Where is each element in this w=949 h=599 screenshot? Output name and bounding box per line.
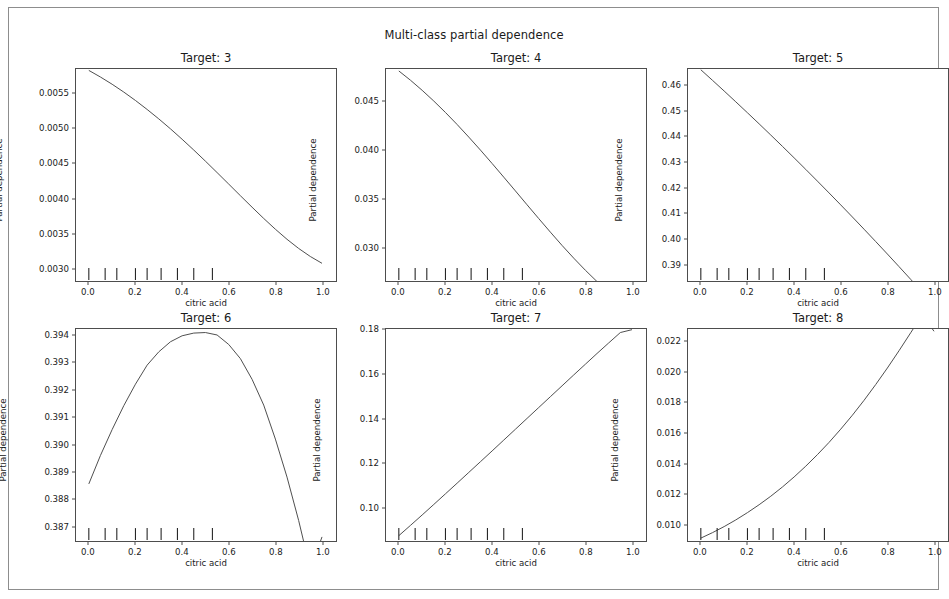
decile-rug: [701, 268, 825, 280]
pdp-curve-svg: [688, 329, 948, 541]
x-tick-label: 0.4: [787, 547, 801, 557]
x-tick-label: 0.8: [269, 547, 283, 557]
x-tick-label: 0.2: [128, 287, 142, 297]
x-axis-label: citric acid: [75, 298, 337, 308]
x-tick-label: 0.0: [81, 287, 95, 297]
x-tick-mark: [322, 542, 323, 545]
x-tick-label: 0.4: [787, 287, 801, 297]
y-tick-label: 0.46: [662, 80, 681, 90]
plot-area: [385, 328, 647, 542]
plot-area: [687, 328, 949, 542]
y-tick-label: 0.0030: [39, 264, 69, 274]
x-tick-label: 1.0: [316, 287, 330, 297]
y-tick-label: 0.392: [44, 385, 69, 395]
y-tick-label: 0.39: [662, 260, 681, 270]
y-tick-label: 0.0055: [39, 88, 69, 98]
y-axis-label: Partial dependence: [312, 380, 322, 500]
x-tick-label: 0.0: [81, 547, 95, 557]
y-tick-mark: [72, 362, 75, 363]
partial-dependence-line: [701, 70, 934, 281]
y-tick-label: 0.389: [44, 467, 69, 477]
y-tick-label: 0.022: [656, 336, 681, 346]
y-tick-mark: [382, 199, 385, 200]
x-tick-label: 0.2: [128, 547, 142, 557]
x-tick-label: 0.8: [269, 287, 283, 297]
x-tick-label: 1.0: [316, 547, 330, 557]
y-tick-mark: [72, 526, 75, 527]
x-tick-label: 0.4: [175, 287, 189, 297]
y-tick-mark: [684, 136, 687, 137]
y-tick-mark: [684, 264, 687, 265]
axes-title: Target: 7: [385, 311, 647, 325]
y-tick-label: 0.14: [360, 414, 379, 424]
y-tick-label: 0.016: [656, 428, 681, 438]
y-tick-mark: [72, 198, 75, 199]
x-tick-mark: [181, 542, 182, 545]
x-tick-mark: [491, 282, 492, 285]
y-tick-label: 0.018: [656, 397, 681, 407]
x-tick-label: 0.8: [579, 287, 593, 297]
pdp-curve-svg: [386, 69, 646, 281]
x-axis-label: citric acid: [687, 298, 949, 308]
x-tick-mark: [632, 282, 633, 285]
panel-target-7: Target: 70.100.120.140.160.180.00.20.40.…: [385, 328, 647, 542]
panel-target-6: Target: 60.3870.3880.3890.3900.3910.3920…: [75, 328, 337, 542]
y-tick-mark: [684, 402, 687, 403]
plot-area: [385, 68, 647, 282]
x-tick-label: 1.0: [928, 547, 942, 557]
y-tick-mark: [684, 524, 687, 525]
y-tick-label: 0.44: [662, 131, 681, 141]
x-tick-mark: [87, 282, 88, 285]
y-tick-label: 0.040: [354, 145, 379, 155]
axes-title: Target: 3: [75, 51, 337, 65]
y-tick-mark: [72, 163, 75, 164]
y-tick-label: 0.43: [662, 157, 681, 167]
y-tick-label: 0.010: [656, 520, 681, 530]
y-tick-mark: [72, 472, 75, 473]
x-tick-mark: [444, 282, 445, 285]
x-tick-mark: [887, 542, 888, 545]
panel-target-5: Target: 50.390.400.410.420.430.440.450.4…: [687, 68, 949, 282]
x-tick-mark: [746, 282, 747, 285]
x-tick-label: 0.0: [693, 287, 707, 297]
decile-rug: [89, 268, 213, 280]
plot-area: [75, 328, 337, 542]
y-tick-label: 0.0045: [39, 158, 69, 168]
x-tick-mark: [181, 282, 182, 285]
x-tick-mark: [444, 542, 445, 545]
y-tick-label: 0.035: [354, 194, 379, 204]
y-tick-mark: [72, 128, 75, 129]
x-tick-label: 0.2: [740, 287, 754, 297]
y-tick-label: 0.394: [44, 330, 69, 340]
pdp-curve-svg: [76, 329, 336, 541]
x-tick-label: 1.0: [626, 547, 640, 557]
y-tick-mark: [684, 341, 687, 342]
y-tick-label: 0.10: [360, 503, 379, 513]
y-tick-mark: [684, 84, 687, 85]
x-tick-mark: [840, 542, 841, 545]
x-tick-label: 0.8: [881, 287, 895, 297]
x-tick-label: 0.0: [391, 547, 405, 557]
y-tick-mark: [382, 508, 385, 509]
x-tick-label: 0.0: [391, 287, 405, 297]
decile-rug: [399, 268, 523, 280]
y-tick-mark: [72, 417, 75, 418]
plot-area: [75, 68, 337, 282]
y-tick-mark: [684, 371, 687, 372]
y-tick-label: 0.390: [44, 440, 69, 450]
x-tick-mark: [397, 542, 398, 545]
x-tick-mark: [585, 542, 586, 545]
y-tick-label: 0.16: [360, 369, 379, 379]
y-tick-mark: [72, 92, 75, 93]
y-tick-label: 0.0035: [39, 229, 69, 239]
x-tick-label: 0.4: [485, 547, 499, 557]
y-tick-label: 0.0050: [39, 123, 69, 133]
axes-title: Target: 6: [75, 311, 337, 325]
y-axis-label: Partial dependence: [614, 120, 624, 240]
y-tick-label: 0.42: [662, 183, 681, 193]
y-tick-label: 0.045: [354, 96, 379, 106]
y-tick-label: 0.40: [662, 234, 681, 244]
y-tick-label: 0.391: [44, 412, 69, 422]
x-tick-mark: [322, 282, 323, 285]
y-tick-label: 0.41: [662, 208, 681, 218]
